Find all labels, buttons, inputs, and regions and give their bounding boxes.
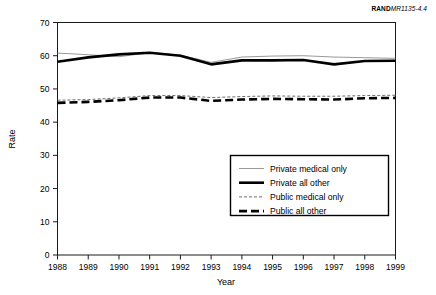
- x-tick-label: 1998: [355, 262, 374, 272]
- y-tick-label: 30: [40, 150, 50, 160]
- legend-label: Public all other: [270, 206, 327, 216]
- y-tick-label: 50: [40, 84, 50, 94]
- line-chart: 010203040506070 198819891990199119921993…: [0, 0, 436, 295]
- x-tick-label: 1990: [109, 262, 128, 272]
- x-tick-label: 1988: [48, 262, 67, 272]
- legend-label: Private medical only: [270, 164, 348, 174]
- y-axis-title: Rate: [7, 129, 17, 148]
- x-tick-label: 1999: [386, 262, 405, 272]
- chart-figure: RANDMR1135-4.4 010203040506070 198819891…: [0, 0, 436, 295]
- y-tick-label: 10: [40, 217, 50, 227]
- y-tick-label: 20: [40, 184, 50, 194]
- x-tick-label: 1991: [140, 262, 159, 272]
- x-tick-label: 1993: [202, 262, 221, 272]
- x-axis-title: Year: [217, 277, 235, 287]
- y-tick-label: 60: [40, 51, 50, 61]
- x-tick-label: 1995: [263, 262, 282, 272]
- x-axis: 1988198919901991199219931994199519961997…: [48, 255, 405, 272]
- y-axis: 010203040506070: [40, 18, 57, 261]
- chart-legend: Private medical onlyPrivate all otherPub…: [231, 156, 389, 217]
- x-tick-label: 1997: [325, 262, 344, 272]
- x-tick-label: 1989: [79, 262, 98, 272]
- y-tick-label: 70: [40, 18, 50, 28]
- x-tick-label: 1992: [171, 262, 190, 272]
- x-tick-label: 1996: [294, 262, 313, 272]
- y-tick-label: 0: [45, 250, 50, 260]
- legend-label: Private all other: [270, 178, 330, 188]
- legend-label: Public medical only: [270, 192, 344, 202]
- x-tick-label: 1994: [232, 262, 251, 272]
- y-tick-label: 40: [40, 117, 50, 127]
